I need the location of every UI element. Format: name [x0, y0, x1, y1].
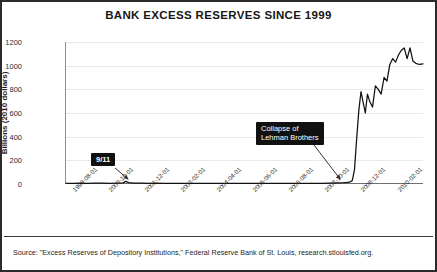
y-axis-tick-label: 400 [0, 132, 22, 141]
series-path-excess-reserves [66, 48, 423, 183]
annotation-911-label: 9/11 [91, 153, 115, 166]
annotation-lehman-line1: Collapse of [261, 124, 299, 133]
x-axis-tick-label: 2008-12-01 [359, 188, 364, 193]
chart-figure: BANK EXCESS RESERVES SINCE 1999 Billions… [0, 0, 437, 272]
x-axis-tick-label: 2000-10-01 [107, 188, 112, 193]
y-axis-tick-label: 0 [0, 180, 22, 189]
x-axis-tick-label: 1999-08-01 [71, 188, 76, 193]
plot-area [65, 42, 423, 184]
y-axis-tick-label: 200 [0, 156, 22, 165]
y-axis-tick-label: 1000 [0, 61, 22, 70]
source-note: Source: "Excess Reserves of Depository I… [13, 248, 373, 257]
footer-divider [4, 236, 433, 237]
series-line-chart [66, 42, 423, 184]
y-axis-tick-label: 800 [0, 85, 22, 94]
y-axis-tick-label: 1200 [0, 38, 22, 47]
x-axis-tick-label: 2010-02-01 [396, 188, 401, 193]
x-axis-tick-label: 2005-06-01 [251, 188, 256, 193]
annotation-lehman-label: Collapse ofLehman Brothers [256, 122, 324, 145]
x-axis-tick-label: 2007-10-01 [323, 188, 328, 193]
page-title: BANK EXCESS RESERVES SINCE 1999 [2, 9, 435, 21]
annotation-lehman-line2: Lehman Brothers [261, 133, 319, 142]
x-axis-tick-label: 2001-12-01 [143, 188, 148, 193]
x-axis-tick-label: 2006-08-01 [287, 188, 292, 193]
x-axis-tick-group: 1999-08-012000-10-012001-12-012003-02-01… [65, 188, 422, 236]
y-axis-tick-label: 600 [0, 109, 22, 118]
x-axis-tick-label: 2004-04-01 [215, 188, 220, 193]
x-axis-tick-label: 2003-02-01 [179, 188, 184, 193]
